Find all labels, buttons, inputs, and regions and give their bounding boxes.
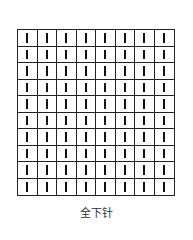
chart-cell: [116, 80, 136, 97]
chart-cell: [135, 113, 155, 130]
chart-cell: [96, 30, 116, 47]
knit-stitch-icon: [85, 50, 87, 60]
chart-cell: [155, 146, 175, 163]
knit-stitch-icon: [85, 99, 87, 109]
chart-cell: [38, 146, 58, 163]
chart-cell: [77, 162, 97, 179]
knit-stitch-icon: [124, 165, 126, 175]
chart-cell: [155, 129, 175, 146]
knit-stitch-icon: [65, 149, 67, 159]
chart-cell: [135, 129, 155, 146]
knit-stitch-icon: [104, 83, 106, 93]
knit-stitch-icon: [163, 182, 165, 193]
chart-cell: [116, 179, 136, 196]
knit-stitch-icon: [163, 50, 165, 60]
knit-stitch-icon: [124, 182, 126, 193]
knit-stitch-icon: [124, 50, 126, 60]
chart-cell: [96, 47, 116, 64]
knit-stitch-icon: [46, 149, 48, 159]
knit-stitch-icon: [85, 33, 87, 43]
knit-stitch-icon: [46, 182, 48, 193]
chart-cell: [155, 96, 175, 113]
knit-stitch-icon: [26, 66, 28, 76]
knit-stitch-icon: [163, 149, 165, 159]
knit-stitch-icon: [46, 83, 48, 93]
chart-cell: [57, 129, 77, 146]
knit-stitch-icon: [85, 132, 87, 142]
knit-stitch-icon: [26, 116, 28, 126]
chart-cell: [57, 30, 77, 47]
knit-stitch-icon: [65, 33, 67, 43]
knit-stitch-icon: [104, 182, 106, 193]
knit-stitch-icon: [26, 83, 28, 93]
knit-stitch-icon: [124, 83, 126, 93]
chart-cell: [116, 113, 136, 130]
knit-stitch-icon: [104, 99, 106, 109]
chart-cell: [116, 146, 136, 163]
chart-caption: 全下针: [0, 204, 193, 220]
chart-cell: [57, 113, 77, 130]
knit-stitch-icon: [65, 132, 67, 142]
chart-cell: [57, 96, 77, 113]
knit-stitch-icon: [26, 182, 28, 193]
chart-cell: [57, 47, 77, 64]
chart-cell: [135, 146, 155, 163]
knit-stitch-icon: [143, 50, 145, 60]
knit-stitch-icon: [143, 132, 145, 142]
chart-cell: [77, 80, 97, 97]
chart-cell: [155, 113, 175, 130]
chart-cell: [155, 30, 175, 47]
knit-stitch-icon: [65, 165, 67, 175]
knit-stitch-icon: [65, 182, 67, 193]
chart-cell: [96, 162, 116, 179]
chart-cell: [155, 179, 175, 196]
chart-cell: [77, 113, 97, 130]
knit-stitch-icon: [163, 99, 165, 109]
chart-cell: [38, 47, 58, 64]
chart-cell: [135, 47, 155, 64]
chart-cell: [116, 162, 136, 179]
knit-stitch-icon: [85, 83, 87, 93]
chart-cell: [135, 80, 155, 97]
chart-cell: [116, 96, 136, 113]
chart-cell: [18, 47, 38, 64]
knit-stitch-icon: [163, 33, 165, 43]
knit-stitch-icon: [124, 33, 126, 43]
knit-stitch-icon: [85, 116, 87, 126]
knit-stitch-icon: [26, 149, 28, 159]
chart-cell: [116, 30, 136, 47]
knitting-chart-grid: [17, 29, 175, 196]
chart-cell: [18, 129, 38, 146]
chart-cell: [77, 129, 97, 146]
chart-cell: [77, 63, 97, 80]
knit-stitch-icon: [104, 116, 106, 126]
chart-cell: [18, 63, 38, 80]
chart-cell: [38, 162, 58, 179]
knit-stitch-icon: [163, 66, 165, 76]
chart-cell: [77, 146, 97, 163]
chart-cell: [38, 129, 58, 146]
knit-stitch-icon: [163, 165, 165, 175]
knit-stitch-icon: [143, 165, 145, 175]
chart-cell: [135, 96, 155, 113]
chart-cell: [135, 63, 155, 80]
chart-cell: [96, 129, 116, 146]
knit-stitch-icon: [85, 149, 87, 159]
chart-cell: [38, 30, 58, 47]
chart-cell: [38, 179, 58, 196]
chart-cell: [116, 129, 136, 146]
knit-stitch-icon: [163, 132, 165, 142]
knit-stitch-icon: [65, 50, 67, 60]
chart-cell: [155, 63, 175, 80]
knit-stitch-icon: [65, 66, 67, 76]
knit-stitch-icon: [46, 50, 48, 60]
knit-stitch-icon: [104, 132, 106, 142]
chart-cell: [18, 113, 38, 130]
knit-stitch-icon: [46, 33, 48, 43]
knit-stitch-icon: [124, 66, 126, 76]
chart-cell: [135, 179, 155, 196]
knit-stitch-icon: [143, 83, 145, 93]
chart-cell: [18, 80, 38, 97]
chart-cell: [57, 80, 77, 97]
knit-stitch-icon: [104, 66, 106, 76]
